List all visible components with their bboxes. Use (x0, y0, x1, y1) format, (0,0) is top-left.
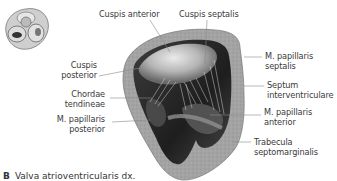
label-text: tendineae (65, 100, 105, 110)
label-text: septalis (265, 62, 313, 72)
label-cuspis-septalis: Cuspis septalis (179, 10, 239, 20)
figure: Cuspis anterior Cuspis septalis Cuspis p… (0, 0, 337, 181)
label-text: interventriculare (267, 91, 334, 101)
label-m-papillaris-anterior: M. papillaris anterior (264, 108, 312, 127)
caption-text: Valva atrioventricularis dx. (15, 171, 136, 181)
figure-caption: BValva atrioventricularis dx. (3, 171, 135, 181)
label-trabecula-septomarginalis: Trabecula septomarginalis (254, 138, 318, 157)
label-text: posterior (61, 71, 97, 81)
label-chordae-tendineae: Chordae tendineae (65, 90, 105, 109)
label-m-papillaris-septalis: M. papillaris septalis (265, 52, 313, 71)
label-text: Cuspis anterior (99, 10, 159, 20)
caption-letter: B (3, 171, 10, 181)
label-text: posterior (57, 125, 105, 135)
label-m-papillaris-posterior: M. papillaris posterior (57, 115, 105, 134)
valve-inset-icon (6, 9, 49, 50)
label-cuspis-anterior: Cuspis anterior (99, 10, 159, 20)
label-cuspis-posterior: Cuspis posterior (61, 61, 97, 80)
label-septum-interventriculare: Septum interventriculare (267, 81, 334, 100)
label-text: Cuspis septalis (179, 10, 239, 20)
label-text: septomarginalis (254, 148, 318, 158)
label-text: anterior (264, 118, 312, 128)
